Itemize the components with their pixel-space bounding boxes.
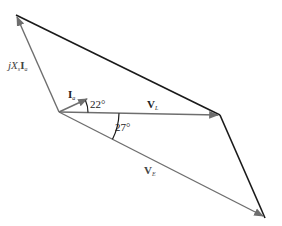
angle-label-27: 27° [115, 121, 130, 133]
ve-label: VE [144, 164, 156, 177]
closing-line-right [220, 115, 265, 218]
closing-line-top [16, 15, 220, 115]
phasor-diagram: jXsIa Ia 22° 27° VL VE [0, 0, 282, 226]
vl-phasor [59, 112, 218, 115]
angle-arc-22 [86, 101, 89, 113]
vl-label: VL [147, 98, 159, 111]
angle-label-22: 22° [90, 98, 105, 110]
jxs-ia-label: jXsIa [6, 59, 27, 72]
ve-phasor [59, 112, 263, 216]
ia-label: Ia [68, 88, 75, 101]
